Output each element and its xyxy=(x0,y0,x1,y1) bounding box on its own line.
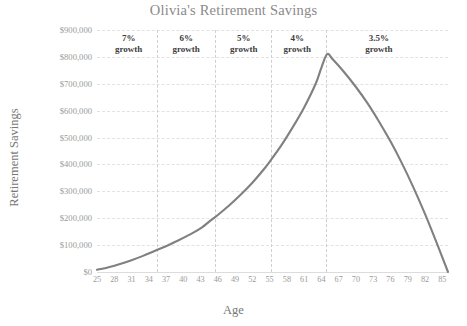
x-axis-tick-label: 61 xyxy=(300,275,308,284)
x-axis-tick-label: 28 xyxy=(110,275,118,284)
chart-container: Olivia's Retirement Savings Retirement S… xyxy=(0,0,467,326)
axis-baseline xyxy=(97,272,448,273)
x-axis-tick-label: 49 xyxy=(231,275,239,284)
x-axis-tick-label: 37 xyxy=(162,275,170,284)
y-axis-tick-label: $400,000 xyxy=(22,159,92,169)
y-axis-tick-label: $900,000 xyxy=(22,25,92,35)
y-axis-tick-label: $200,000 xyxy=(22,213,92,223)
y-axis-tick-label: $100,000 xyxy=(22,240,92,250)
x-axis-tick-label: 31 xyxy=(127,275,135,284)
x-axis-tick-label: 76 xyxy=(386,275,394,284)
x-axis-tick-label: 70 xyxy=(352,275,360,284)
chart-title: Olivia's Retirement Savings xyxy=(0,2,467,19)
savings-curve xyxy=(97,30,448,272)
x-axis-tick-label: 40 xyxy=(179,275,187,284)
x-axis-tick-label: 64 xyxy=(317,275,325,284)
y-axis-tick-label: $800,000 xyxy=(22,52,92,62)
plot-area: $0$100,000$200,000$300,000$400,000$500,0… xyxy=(97,30,448,272)
x-axis-tick-label: 79 xyxy=(404,275,412,284)
x-axis-tick-label: 67 xyxy=(335,275,343,284)
x-axis-tick-label: 46 xyxy=(214,275,222,284)
y-axis-tick-label: $0 xyxy=(22,267,92,277)
curve-path xyxy=(97,54,448,272)
x-axis-tick-label: 85 xyxy=(438,275,446,284)
y-axis-tick-label: $600,000 xyxy=(22,106,92,116)
x-axis-tick-label: 73 xyxy=(369,275,377,284)
y-axis-tick-label: $700,000 xyxy=(22,79,92,89)
y-axis-title: Retirement Savings xyxy=(7,73,22,243)
x-axis-tick-label: 82 xyxy=(421,275,429,284)
x-axis-title: Age xyxy=(0,303,467,318)
x-axis-tick-label: 55 xyxy=(266,275,274,284)
x-axis-tick-label: 25 xyxy=(93,275,101,284)
x-axis-tick-label: 52 xyxy=(248,275,256,284)
y-axis-tick-label: $500,000 xyxy=(22,133,92,143)
y-axis-tick-label: $300,000 xyxy=(22,186,92,196)
x-axis-tick-label: 43 xyxy=(196,275,204,284)
x-axis-tick-label: 58 xyxy=(283,275,291,284)
x-axis-tick-label: 34 xyxy=(145,275,153,284)
